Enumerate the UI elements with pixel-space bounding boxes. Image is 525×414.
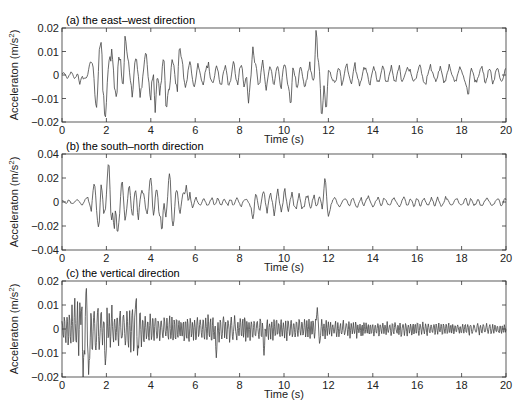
x-tick-label: 0 bbox=[59, 379, 65, 391]
y-tick-label: −0.02 bbox=[31, 116, 59, 128]
waveform-line bbox=[62, 165, 506, 232]
axes-box bbox=[62, 28, 506, 122]
x-tick-label: 2 bbox=[103, 252, 109, 264]
x-axis-label: Time (s) bbox=[264, 133, 304, 145]
x-tick-label: 0 bbox=[59, 124, 65, 136]
x-tick-label: 16 bbox=[411, 379, 423, 391]
x-tick-label: 6 bbox=[192, 379, 198, 391]
x-tick-label: 6 bbox=[192, 124, 198, 136]
x-axis-label: Time (s) bbox=[264, 388, 304, 400]
x-tick-label: 20 bbox=[500, 252, 512, 264]
y-tick-label: −0.02 bbox=[31, 220, 59, 232]
y-tick-label: 0.04 bbox=[38, 148, 59, 160]
x-tick-label: 4 bbox=[148, 379, 154, 391]
y-tick-label: 0 bbox=[53, 69, 59, 81]
panel-title: (a) the east–west direction bbox=[66, 14, 195, 26]
panel-title: (c) the vertical direction bbox=[66, 267, 180, 279]
waveform-line bbox=[62, 288, 506, 377]
figure: 02468101214161820−0.02−0.0100.010.02Time… bbox=[0, 0, 525, 414]
x-tick-label: 12 bbox=[322, 124, 334, 136]
y-tick-label: 0 bbox=[53, 323, 59, 335]
y-tick-label: −0.02 bbox=[31, 371, 59, 383]
x-tick-label: 20 bbox=[500, 124, 512, 136]
x-tick-label: 6 bbox=[192, 252, 198, 264]
panel-east-west: 02468101214161820−0.02−0.0100.010.02Time… bbox=[7, 14, 512, 145]
x-tick-label: 14 bbox=[367, 252, 379, 264]
x-axis-label: Time (s) bbox=[264, 261, 304, 273]
panel-title: (b) the south–north direction bbox=[66, 140, 204, 152]
y-axis-label: Acceleraton (m/s2) bbox=[7, 284, 20, 375]
y-tick-label: 0.02 bbox=[38, 22, 59, 34]
y-tick-label: 0.01 bbox=[38, 299, 59, 311]
y-tick-label: −0.01 bbox=[31, 347, 59, 359]
x-tick-label: 16 bbox=[411, 252, 423, 264]
y-tick-label: −0.01 bbox=[31, 93, 59, 105]
y-tick-label: 0 bbox=[53, 196, 59, 208]
x-tick-label: 4 bbox=[148, 124, 154, 136]
x-tick-label: 12 bbox=[322, 379, 334, 391]
x-tick-label: 18 bbox=[455, 124, 467, 136]
x-tick-label: 4 bbox=[148, 252, 154, 264]
waveform-line bbox=[62, 30, 506, 116]
y-tick-label: −0.04 bbox=[31, 244, 59, 256]
x-tick-label: 14 bbox=[367, 379, 379, 391]
x-tick-label: 20 bbox=[500, 379, 512, 391]
x-tick-label: 14 bbox=[367, 124, 379, 136]
panel-vertical: 02468101214161820−0.02−0.0100.010.02Time… bbox=[7, 267, 512, 400]
x-tick-label: 8 bbox=[237, 379, 243, 391]
x-tick-label: 18 bbox=[455, 379, 467, 391]
x-tick-label: 12 bbox=[322, 252, 334, 264]
panel-south-north: 02468101214161820−0.04−0.0200.020.04Time… bbox=[7, 140, 512, 273]
x-tick-label: 8 bbox=[237, 124, 243, 136]
y-axis-label: Acceleraton (m/s2) bbox=[7, 157, 20, 248]
x-tick-label: 8 bbox=[237, 252, 243, 264]
y-tick-label: 0.02 bbox=[38, 172, 59, 184]
x-tick-label: 2 bbox=[103, 124, 109, 136]
x-tick-label: 16 bbox=[411, 124, 423, 136]
y-axis-label: Acceleraton (m/s2) bbox=[7, 30, 20, 121]
y-tick-label: 0.02 bbox=[38, 275, 59, 287]
x-tick-label: 0 bbox=[59, 252, 65, 264]
y-tick-label: 0.01 bbox=[38, 46, 59, 58]
x-tick-label: 2 bbox=[103, 379, 109, 391]
x-tick-label: 18 bbox=[455, 252, 467, 264]
